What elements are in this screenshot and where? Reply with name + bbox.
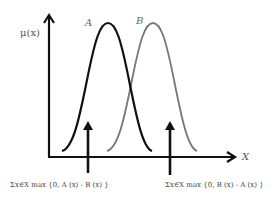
x-axis-label: X xyxy=(242,151,249,162)
arrow-right-region xyxy=(165,121,175,175)
x-axis xyxy=(48,152,235,162)
y-axis-label: μ(x) xyxy=(20,27,40,38)
diagram-canvas xyxy=(0,0,280,198)
arrow-left-region xyxy=(83,121,93,173)
curve-b-label: B xyxy=(136,15,143,26)
formula-b-minus-a: Σx∈X max {0, B (x) - A (x) } xyxy=(165,181,264,189)
curve-a-label: A xyxy=(85,17,92,28)
y-axis xyxy=(44,15,54,157)
curve-a xyxy=(62,23,152,151)
formula-a-minus-b: Σx∈X max {0, A (x) - B (x) } xyxy=(10,181,109,189)
